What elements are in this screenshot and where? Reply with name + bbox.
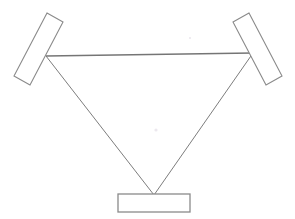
- diagram-canvas: [0, 0, 295, 219]
- upper-speck-artifact: [189, 37, 191, 39]
- bottom-element-shape: [118, 194, 190, 212]
- center-speck-artifact: [154, 128, 157, 131]
- optical-cavity-diagram: [0, 0, 295, 219]
